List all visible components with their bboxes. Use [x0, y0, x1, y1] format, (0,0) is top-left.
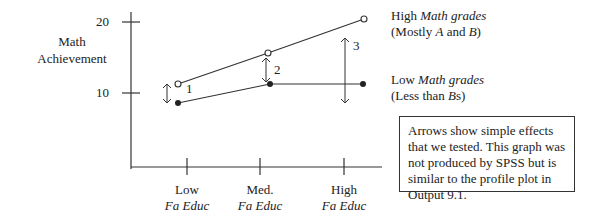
- legend-low-line2-a: (Less than: [391, 88, 448, 103]
- legend-high-line2-a: (Mostly: [391, 24, 435, 39]
- x-tick-med: Med. Fa Educ: [215, 182, 305, 214]
- y-axis-title: Math Achievement: [22, 33, 122, 67]
- y-tick-10: 10: [79, 85, 109, 101]
- y-axis: [122, 12, 140, 169]
- series-high-math-grades: [175, 16, 367, 87]
- legend-low-prefix: Low: [391, 72, 418, 87]
- legend-low-grade-b: B: [448, 88, 456, 103]
- arrow-label-1: 1: [186, 81, 193, 97]
- x-tick-high-label: High: [299, 182, 389, 198]
- legend-high-end: ): [477, 24, 481, 39]
- note-box: Arrows show simple effects that we teste…: [399, 116, 575, 192]
- arrow-label-2: 2: [274, 62, 281, 78]
- x-axis: [131, 158, 382, 175]
- legend-low-end: s): [456, 88, 465, 103]
- x-tick-high-sublabel: Fa Educ: [322, 198, 366, 213]
- legend-low-math-grades: Low Math grades (Less than Bs): [391, 72, 484, 104]
- y-axis-title-line2: Achievement: [22, 50, 122, 67]
- y-tick-20: 20: [79, 14, 109, 30]
- x-tick-high: High Fa Educ: [299, 182, 389, 214]
- series-low-math-grades: [175, 81, 366, 106]
- legend-high-prefix: High: [391, 8, 420, 23]
- legend-high-and: and: [443, 24, 468, 39]
- legend-high-math-grades: High Math grades (Mostly A and B): [391, 8, 486, 40]
- legend-low-italic: Math grades: [418, 72, 484, 87]
- arrow-label-3: 3: [353, 38, 360, 54]
- x-tick-med-label: Med.: [215, 182, 305, 198]
- simple-effect-arrow-1: [163, 84, 171, 103]
- simple-effect-arrow-3: [341, 38, 349, 103]
- legend-high-grade-b: B: [469, 24, 477, 39]
- legend-high-italic: Math grades: [420, 8, 486, 23]
- y-axis-title-line1: Math: [22, 33, 122, 50]
- x-tick-low-sublabel: Fa Educ: [165, 198, 209, 213]
- x-tick-med-sublabel: Fa Educ: [238, 198, 282, 213]
- simple-effect-arrow-2: [262, 58, 270, 82]
